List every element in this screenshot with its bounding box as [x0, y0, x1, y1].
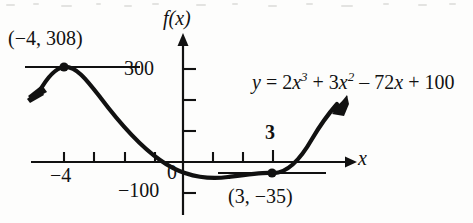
maximum-point-marker [59, 62, 68, 71]
y-axis [178, 33, 189, 215]
equation-term1-coef: 2 [282, 71, 292, 93]
figure-container: (−4, 308) f(x) 300 −100 0 −4 3 (3, −35) … [0, 0, 473, 223]
curve-arrow-left [27, 85, 47, 103]
equation-term2-exp: 2 [348, 69, 355, 84]
x-axis-ticks-negative [64, 152, 155, 162]
origin-label: 0 [167, 162, 177, 182]
minimum-point-label: (3, −35) [228, 186, 293, 206]
x-axis-ticks-positive [213, 150, 273, 162]
x-axis [31, 157, 357, 168]
equation-minus-1: – [359, 71, 369, 93]
equation-term2-coef: 3 [329, 71, 339, 93]
maximum-point-label: (−4, 308) [8, 28, 83, 48]
x-tick-label-neg4: −4 [50, 165, 71, 185]
equation-label: y = 2x3 + 3x2 – 72x + 100 [252, 70, 454, 92]
minimum-point-marker [267, 168, 276, 177]
x-tick-label-3: 3 [265, 122, 275, 142]
equation-term3-var: x [394, 71, 403, 93]
equation-equals: = [266, 71, 277, 93]
equation-term1-var: x [292, 71, 301, 93]
scan-noise [6, 3, 456, 7]
x-axis-label: x [358, 148, 367, 168]
equation-term3-coef: 72 [374, 71, 394, 93]
equation-plus-1: + [313, 71, 324, 93]
equation-term1-exp: 3 [301, 69, 308, 84]
y-axis-label: f(x) [163, 8, 191, 28]
y-tick-label-300: 300 [124, 58, 154, 78]
equation-plus-2: + [408, 71, 419, 93]
curve-arrow-right [330, 95, 349, 116]
equation-term2-var: x [339, 71, 348, 93]
equation-lhs: y [252, 71, 261, 93]
equation-constant: 100 [424, 71, 454, 93]
y-tick-label-neg100: −100 [118, 180, 159, 200]
